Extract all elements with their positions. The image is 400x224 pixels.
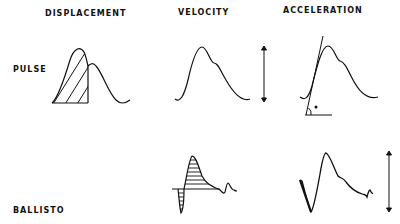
pulse-displacement-panel (28, 45, 130, 125)
ballisto-velocity-panel (172, 156, 237, 213)
angle-dot-icon (315, 106, 318, 109)
diagram-drawing (0, 0, 400, 224)
pulse-velocity-panel (175, 47, 250, 100)
pulse-amplitude-arrow (262, 46, 267, 102)
ballisto-amplitude-arrow (387, 151, 392, 212)
pulse-acceleration-panel (300, 36, 378, 115)
diagram-canvas: DISPLACEMENT VELOCITY ACCELERATION PULSE… (0, 0, 400, 224)
ballisto-acceleration-panel (300, 153, 373, 212)
